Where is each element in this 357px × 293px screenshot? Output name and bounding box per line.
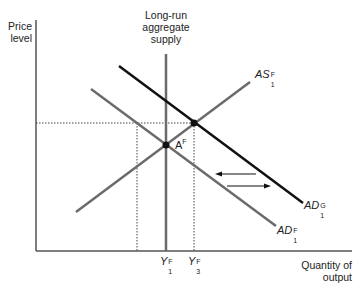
point-upper <box>191 120 198 127</box>
point-a-label: AF <box>175 138 187 151</box>
as-curve <box>76 82 250 212</box>
ad-g-curve <box>119 66 303 203</box>
point-a-sup: F <box>182 138 186 145</box>
x-axis-label: Quantity of output <box>290 259 352 283</box>
y-axis-label-line1: Price <box>2 20 32 32</box>
ad-g-sup: G <box>320 202 325 209</box>
as-sub: 1 <box>271 81 275 88</box>
tick-y3-base: Y <box>188 255 195 267</box>
lras-label: Long-run aggregate supply <box>131 9 201 45</box>
tick-y1-label: YF1 <box>160 255 173 267</box>
tick-y3-sub: 3 <box>196 268 200 275</box>
tick-y3-sup: F <box>196 258 200 265</box>
point-a <box>163 142 170 149</box>
ad-f-base: AD <box>277 224 292 236</box>
tick-y1-base: Y <box>160 255 167 267</box>
tick-y1-sup: F <box>168 258 172 265</box>
ad-f-sub: 1 <box>293 237 297 244</box>
ad-g-sub: 1 <box>320 212 324 219</box>
lras-label-line3: supply <box>131 33 201 45</box>
as-base: AS <box>255 68 270 80</box>
ad-g-curve-label: ADG1 <box>304 199 325 211</box>
x-axis-label-line2: output <box>290 271 352 283</box>
lras-label-line1: Long-run <box>131 9 201 21</box>
tick-y3-label: YF3 <box>188 255 201 267</box>
y-axis-label-line2: level <box>2 32 32 44</box>
x-axis-label-line1: Quantity of <box>290 259 352 271</box>
lras-label-line2: aggregate <box>131 21 201 33</box>
tick-y1-sub: 1 <box>168 268 172 275</box>
ad-f-sup: F <box>293 227 297 234</box>
y-axis-label: Price level <box>2 20 32 44</box>
arrow-left-icon <box>215 172 256 177</box>
as-sup: F <box>271 71 275 78</box>
arrow-right-icon <box>227 184 271 189</box>
ad-g-base: AD <box>304 199 319 211</box>
ad-f-curve <box>91 89 276 226</box>
as-curve-label: ASF1 <box>255 68 276 80</box>
ad-f-curve-label: ADF1 <box>277 224 298 236</box>
